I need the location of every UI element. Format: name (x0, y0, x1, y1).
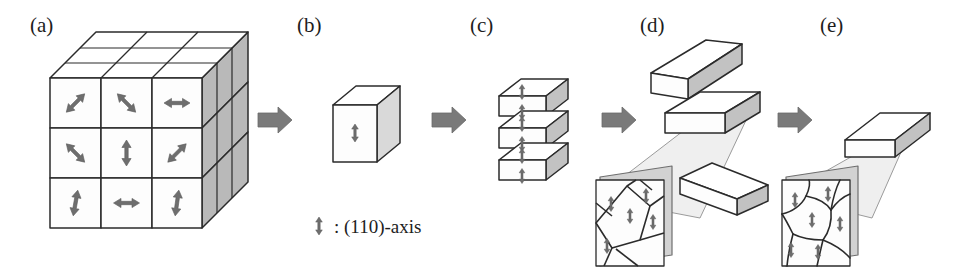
panel-label-e: (e) (820, 13, 843, 37)
panel-a-cube (50, 32, 248, 228)
panel-label-b: (b) (297, 13, 322, 37)
platelet-e (845, 113, 930, 157)
figure-container: (a) (b) (c) (d) (e) (0, 0, 962, 271)
arrow-b-to-c (432, 107, 466, 133)
diagram-svg: (a) (b) (c) (d) (e) (0, 0, 962, 271)
legend-arrow-icon (316, 217, 323, 235)
panel-c-stacked-platelets (499, 79, 568, 184)
panel-d (596, 40, 768, 266)
panel-e (782, 113, 930, 266)
arrow-c-to-d (602, 107, 636, 133)
panel-label-a: (a) (30, 13, 53, 37)
panel-label-c: (c) (470, 13, 493, 37)
arrow-d-to-e (778, 107, 812, 133)
arrow-a-to-b (258, 107, 292, 133)
legend: : (110)-axis (316, 216, 422, 238)
platelet-d-upper (651, 40, 742, 99)
legend-label: : (110)-axis (334, 216, 421, 238)
inset-d-angular-grains (596, 166, 672, 266)
panel-label-d: (d) (640, 13, 665, 37)
panel-b-single-cube (333, 86, 400, 162)
inset-e-equiaxed-grains (782, 166, 858, 266)
